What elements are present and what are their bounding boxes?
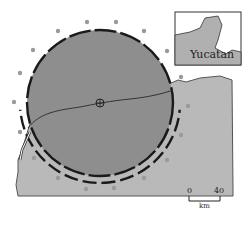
scale-unit-label: km — [199, 202, 210, 210]
scale-max-label: 40 — [214, 186, 224, 195]
crater-map: Yucatan 0 40 km — [0, 0, 246, 246]
crater-center-icon — [96, 99, 104, 107]
scale-min-label: 0 — [187, 186, 192, 195]
inset-label: Yucatan — [189, 48, 234, 61]
inset-map: Yucatan — [175, 12, 241, 65]
